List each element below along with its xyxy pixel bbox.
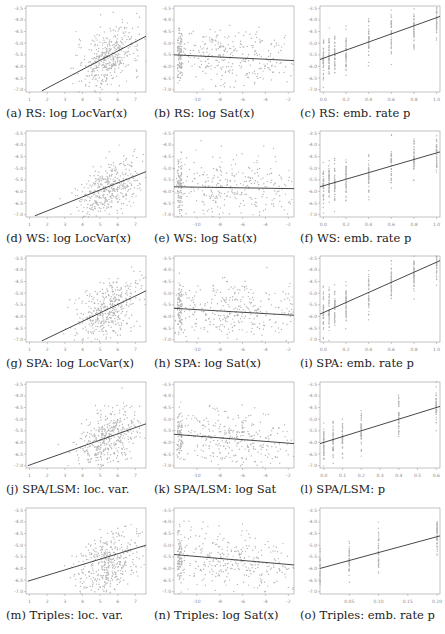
y-tick-label: -7.0 bbox=[14, 212, 23, 217]
subplot-caption: (i) SPA: emb. rate p bbox=[298, 356, 445, 370]
subplot-caption: (b) RS: log Sat(x) bbox=[152, 106, 302, 120]
y-tick-label: -6.0 bbox=[14, 314, 23, 319]
x-tick-label: 2 bbox=[46, 473, 49, 478]
x-tick-label: 0.1 bbox=[339, 473, 346, 478]
x-tick-label: 1.0 bbox=[433, 347, 440, 352]
y-tick-label: -4.0 bbox=[162, 519, 171, 524]
x-tick-label: 0.8 bbox=[410, 97, 417, 102]
x-tick-label: 7 bbox=[134, 97, 137, 102]
plot-frame bbox=[174, 508, 294, 594]
subplot-k: -3.5-4.0-4.5-5.0-5.5-6.0-6.5-7.0-10-8-6-… bbox=[152, 378, 300, 504]
y-tick-label: -3.5 bbox=[14, 508, 23, 513]
y-tick-label: -3.5 bbox=[162, 131, 171, 136]
plot-frame bbox=[320, 131, 440, 217]
x-tick-label: 0.0 bbox=[320, 97, 327, 102]
x-tick-label: 0.6 bbox=[388, 97, 395, 102]
data-points bbox=[323, 256, 438, 342]
regression-line bbox=[320, 261, 440, 314]
y-tick-label: -4.0 bbox=[308, 393, 317, 398]
y-tick-label: -5.0 bbox=[162, 417, 171, 422]
x-tick-label: 0.4 bbox=[395, 473, 402, 478]
subplot-e: -3.5-4.0-4.5-5.0-5.5-6.0-6.5-7.0-10-8-6-… bbox=[152, 127, 300, 253]
x-tick-label: 0.0 bbox=[320, 473, 327, 478]
y-tick-label: -5.5 bbox=[162, 302, 171, 307]
y-tick-label: -7.0 bbox=[162, 87, 171, 92]
y-tick-label: -6.0 bbox=[308, 64, 317, 69]
x-tick-label: 0.0 bbox=[320, 222, 327, 227]
y-tick-label: -4.0 bbox=[308, 519, 317, 524]
y-tick-label: -3.5 bbox=[162, 382, 171, 387]
x-tick-label: 0.6 bbox=[388, 222, 395, 227]
y-tick-label: -3.5 bbox=[14, 382, 23, 387]
y-tick-label: -4.0 bbox=[162, 17, 171, 22]
subplot-a: -3.5-4.0-4.5-5.0-5.5-6.0-6.5-7.01234567(… bbox=[4, 2, 152, 128]
y-tick-label: -4.0 bbox=[308, 17, 317, 22]
subplot-caption: (f) WS: emb. rate p bbox=[298, 231, 445, 245]
y-tick-label: -4.5 bbox=[308, 405, 317, 410]
x-tick-label: 3 bbox=[63, 222, 66, 227]
x-tick-label: 5 bbox=[99, 97, 102, 102]
y-tick-label: -6.5 bbox=[14, 452, 23, 457]
y-tick-label: -7.0 bbox=[308, 87, 317, 92]
x-tick-label: 4 bbox=[81, 97, 84, 102]
subplot-m: -3.5-4.0-4.5-5.0-5.5-6.0-6.5-7.01234567(… bbox=[4, 504, 152, 630]
y-tick-label: -6.0 bbox=[14, 440, 23, 445]
scatter-plot: -3.5-4.0-4.5-5.0-5.5-6.0-6.5-7.00.050.10… bbox=[298, 504, 445, 608]
y-tick-label: -5.5 bbox=[14, 554, 23, 559]
scatter-plot: -3.5-4.0-4.5-5.0-5.5-6.0-6.5-7.01234567 bbox=[4, 378, 152, 482]
subplot-caption: (c) RS: emb. rate p bbox=[298, 106, 445, 120]
x-tick-label: -10 bbox=[193, 347, 200, 352]
scatter-plot: -3.5-4.0-4.5-5.0-5.5-6.0-6.5-7.0-10-8-6-… bbox=[152, 252, 300, 356]
y-tick-label: -4.5 bbox=[162, 531, 171, 536]
x-tick-label: 1 bbox=[28, 222, 31, 227]
scatter-plot: -3.5-4.0-4.5-5.0-5.5-6.0-6.5-7.0-10-8-6-… bbox=[152, 504, 300, 608]
y-tick-label: -7.0 bbox=[162, 337, 171, 342]
plot-frame bbox=[320, 6, 440, 92]
x-tick-label: 3 bbox=[63, 347, 66, 352]
x-tick-label: -10 bbox=[193, 473, 200, 478]
x-tick-label: 3 bbox=[63, 473, 66, 478]
y-tick-label: -5.5 bbox=[162, 554, 171, 559]
scatter-plot: -3.5-4.0-4.5-5.0-5.5-6.0-6.5-7.01234567 bbox=[4, 127, 152, 231]
y-tick-label: -5.0 bbox=[308, 543, 317, 548]
data-points bbox=[323, 7, 438, 88]
y-tick-label: -3.5 bbox=[308, 382, 317, 387]
y-tick-label: -6.0 bbox=[308, 314, 317, 319]
scatter-plot: -3.5-4.0-4.5-5.0-5.5-6.0-6.5-7.0-10-8-6-… bbox=[152, 378, 300, 482]
regression-line bbox=[320, 406, 440, 443]
y-tick-label: -3.5 bbox=[14, 131, 23, 136]
subplot-d: -3.5-4.0-4.5-5.0-5.5-6.0-6.5-7.01234567(… bbox=[4, 127, 152, 253]
data-points bbox=[174, 267, 293, 342]
y-tick-label: -5.5 bbox=[162, 428, 171, 433]
subplot-caption: (d) WS: log LocVar(x) bbox=[4, 231, 154, 245]
subplot-o: -3.5-4.0-4.5-5.0-5.5-6.0-6.5-7.00.050.10… bbox=[298, 504, 445, 630]
y-tick-label: -6.5 bbox=[14, 201, 23, 206]
y-tick-label: -7.0 bbox=[14, 589, 23, 594]
y-tick-label: -3.5 bbox=[162, 508, 171, 513]
x-tick-label: -4 bbox=[263, 347, 268, 352]
subplot-caption: (k) SPA/LSM: log Sat bbox=[152, 482, 302, 496]
y-tick-label: -6.0 bbox=[308, 189, 317, 194]
y-tick-label: -6.5 bbox=[162, 201, 171, 206]
y-tick-label: -5.5 bbox=[308, 52, 317, 57]
x-tick-label: 0.0 bbox=[320, 347, 327, 352]
y-tick-label: -7.0 bbox=[308, 463, 317, 468]
y-tick-label: -6.0 bbox=[162, 440, 171, 445]
y-tick-label: -5.0 bbox=[14, 543, 23, 548]
y-tick-label: -4.5 bbox=[162, 29, 171, 34]
subplot-g: -3.5-4.0-4.5-5.0-5.5-6.0-6.5-7.01234567(… bbox=[4, 252, 152, 378]
x-tick-label: 6 bbox=[116, 599, 119, 604]
x-tick-label: 1 bbox=[28, 347, 31, 352]
scatter-plot: -3.5-4.0-4.5-5.0-5.5-6.0-6.5-7.00.00.20.… bbox=[298, 127, 445, 231]
x-tick-label: -8 bbox=[217, 97, 222, 102]
x-tick-label: 0.4 bbox=[365, 97, 372, 102]
y-tick-label: -6.5 bbox=[14, 76, 23, 81]
x-tick-label: 0.2 bbox=[342, 347, 349, 352]
y-tick-label: -6.5 bbox=[308, 326, 317, 331]
data-points bbox=[59, 144, 146, 217]
scatter-plot: -3.5-4.0-4.5-5.0-5.5-6.0-6.5-7.00.00.20.… bbox=[298, 2, 445, 106]
y-tick-label: -6.5 bbox=[162, 452, 171, 457]
x-tick-label: 0.4 bbox=[365, 347, 372, 352]
y-tick-label: -4.0 bbox=[308, 142, 317, 147]
y-tick-label: -4.5 bbox=[162, 405, 171, 410]
